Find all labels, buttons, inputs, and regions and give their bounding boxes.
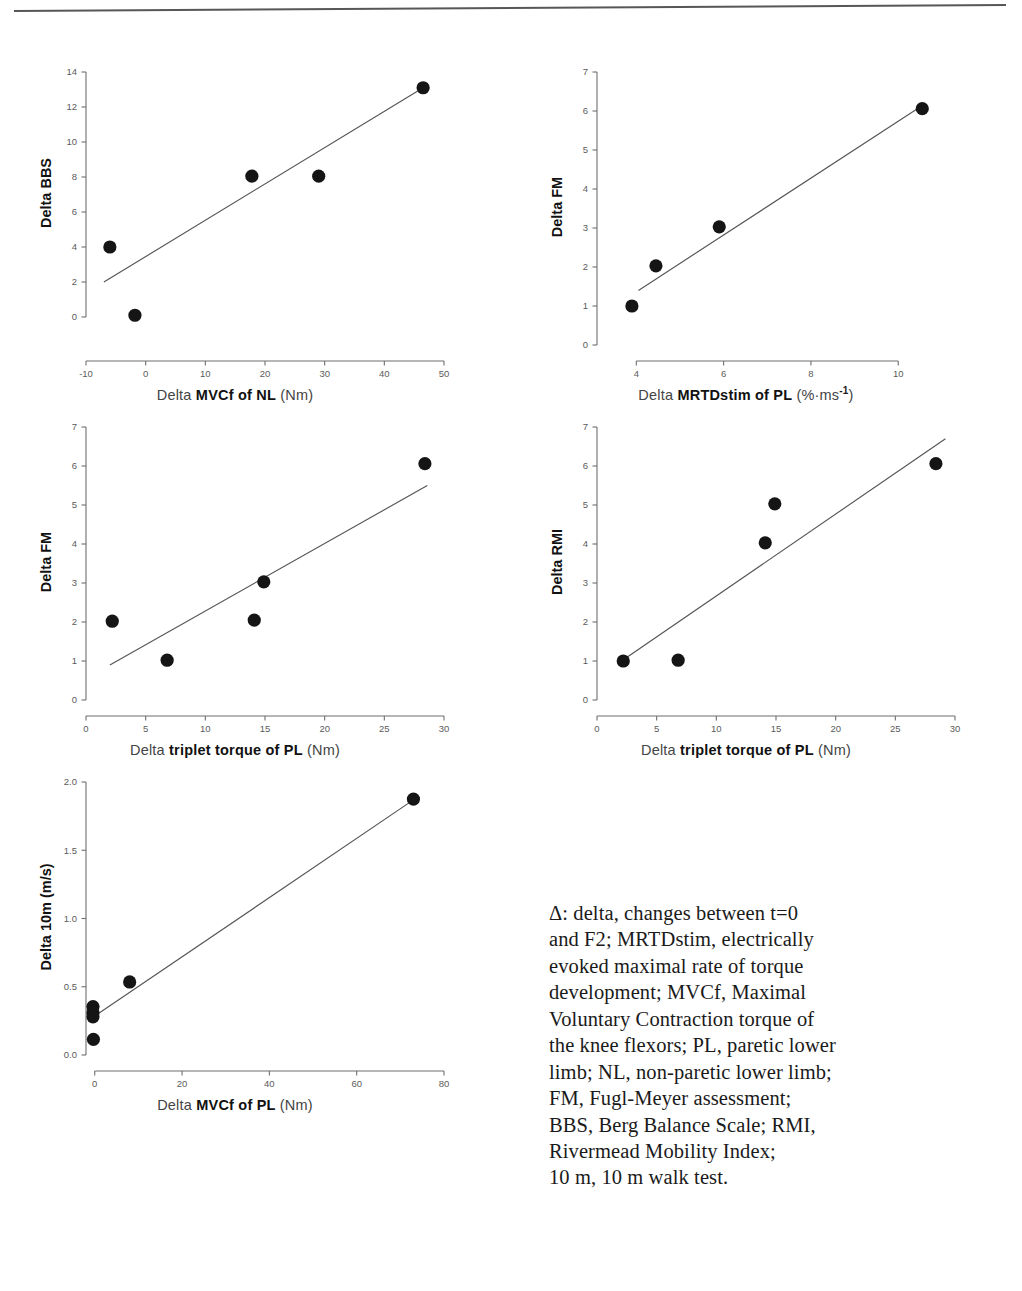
y-axis-title: Delta RMI xyxy=(549,462,565,662)
y-tick-label: 8 xyxy=(72,171,77,182)
data-point xyxy=(916,102,929,115)
x-tick-label: 0 xyxy=(143,368,148,379)
x-tick-label: 10 xyxy=(893,368,904,379)
data-point xyxy=(713,220,726,233)
x-tick-label: 40 xyxy=(264,1078,275,1089)
caption-line: limb; NL, non-paretic lower limb; xyxy=(549,1059,941,1085)
data-point xyxy=(625,299,638,312)
x-tick-label: 30 xyxy=(439,723,450,734)
x-tick-label: 30 xyxy=(319,368,330,379)
data-point xyxy=(407,792,420,805)
data-point xyxy=(672,654,685,667)
caption-line: Voluntary Contraction torque of xyxy=(549,1006,941,1032)
y-tick-label: 12 xyxy=(66,101,77,112)
x-tick-label: 10 xyxy=(711,723,722,734)
y-tick-label: 4 xyxy=(72,241,77,252)
x-axis-title: Delta triplet torque of PL (Nm) xyxy=(0,742,470,758)
y-tick-label: 10 xyxy=(66,136,77,147)
data-point xyxy=(103,240,116,253)
caption-line: Δ: delta, changes between t=0 xyxy=(549,900,941,926)
y-axis-title: Delta FM xyxy=(38,462,54,662)
scatter-panel-fm-vs-triplet-torque-pl: 01234567051015202530Delta triplet torque… xyxy=(0,403,511,758)
y-tick-label: 1 xyxy=(72,655,77,666)
chart-cell-3: 01234567051015202530Delta triplet torque… xyxy=(0,403,511,758)
x-tick-label: 60 xyxy=(351,1078,362,1089)
y-tick-label: 6 xyxy=(583,105,588,116)
x-tick-label: 0 xyxy=(92,1078,97,1089)
panel-rmi-vs-triplet-torque-pl-svg: 01234567051015202530 xyxy=(511,403,981,758)
x-axis: -1001020304050 xyxy=(79,361,449,379)
data-point xyxy=(86,1010,99,1023)
caption-line: evoked maximal rate of torque xyxy=(549,953,941,979)
x-axis-title-lead: Delta xyxy=(130,742,169,758)
y-tick-label: 6 xyxy=(72,206,77,217)
data-point xyxy=(617,654,630,667)
y-axis: 0.00.51.01.52.0 xyxy=(64,776,86,1060)
y-axis-title: Delta BBS xyxy=(38,93,54,293)
figure-caption: Δ: delta, changes between t=0and F2; MRT… xyxy=(549,900,941,1191)
x-axis-title-exponent: -1 xyxy=(839,385,848,396)
y-tick-label: 2 xyxy=(72,276,77,287)
data-point xyxy=(87,1033,100,1046)
y-tick-label: 5 xyxy=(583,144,588,155)
chart-cell-4: 01234567051015202530Delta triplet torque… xyxy=(511,403,1022,758)
y-tick-label: 4 xyxy=(583,538,588,549)
chart-cell-1: 02468101214-1001020304050Delta MVCf of N… xyxy=(0,48,511,403)
data-point xyxy=(161,654,174,667)
y-tick-label: 2.0 xyxy=(64,776,77,787)
x-axis-title-core: triplet torque of PL xyxy=(680,742,814,758)
x-axis-title-core: MVCf of NL xyxy=(196,387,276,403)
x-axis: 051015202530 xyxy=(594,716,960,734)
x-tick-label: 20 xyxy=(830,723,841,734)
caption-line: 10 m, 10 m walk test. xyxy=(549,1164,941,1190)
x-axis-title-core: triplet torque of PL xyxy=(169,742,303,758)
x-tick-label: 15 xyxy=(771,723,782,734)
x-axis: 46810 xyxy=(634,361,904,379)
caption-line: Rivermead Mobility Index; xyxy=(549,1138,941,1164)
caption-line: and F2; MRTDstim, electrically xyxy=(549,926,941,952)
x-tick-label: 5 xyxy=(143,723,148,734)
x-axis-title: Delta MRTDstim of PL (%·ms-1) xyxy=(511,387,981,403)
x-tick-label: 0 xyxy=(594,723,599,734)
x-tick-label: 8 xyxy=(808,368,813,379)
x-axis-title-lead: Delta xyxy=(638,387,677,403)
x-tick-label: 15 xyxy=(260,723,271,734)
data-point xyxy=(649,259,662,272)
trendline xyxy=(104,88,423,282)
x-tick-label: 6 xyxy=(721,368,726,379)
x-axis-title: Delta MVCf of PL (Nm) xyxy=(0,1097,470,1113)
x-tick-label: 4 xyxy=(634,368,639,379)
x-axis: 051015202530 xyxy=(83,716,449,734)
x-axis-title-lead: Delta xyxy=(157,387,196,403)
y-tick-label: 6 xyxy=(72,460,77,471)
chart-row-2: 01234567051015202530Delta triplet torque… xyxy=(0,403,1022,758)
data-point xyxy=(312,170,325,183)
data-points xyxy=(617,457,943,668)
y-tick-label: 0 xyxy=(72,694,77,705)
x-axis-title-core: MRTDstim of PL xyxy=(677,387,792,403)
y-tick-label: 1 xyxy=(583,655,588,666)
data-point xyxy=(128,309,141,322)
data-points xyxy=(106,457,432,667)
y-tick-label: 3 xyxy=(72,577,77,588)
x-axis-title-unit-close: ) xyxy=(849,387,854,403)
data-point xyxy=(257,575,270,588)
y-axis-title: Delta 10m (m/s) xyxy=(38,817,54,1017)
data-points xyxy=(625,102,929,313)
data-points xyxy=(86,792,420,1045)
y-axis-title: Delta FM xyxy=(549,107,565,307)
y-tick-label: 1.0 xyxy=(64,913,77,924)
trendline xyxy=(110,486,427,665)
x-axis-title-lead: Delta xyxy=(157,1097,196,1113)
y-tick-label: 7 xyxy=(583,421,588,432)
x-tick-label: 5 xyxy=(654,723,659,734)
y-tick-label: 0.5 xyxy=(64,981,77,992)
y-axis: 01234567 xyxy=(583,66,597,350)
x-tick-label: 10 xyxy=(200,723,211,734)
x-axis-title-core: MVCf of PL xyxy=(196,1097,275,1113)
x-axis-title-unit: (Nm) xyxy=(276,1097,313,1113)
scatter-panel-bbs-vs-mvcf-nl: 02468101214-1001020304050Delta MVCf of N… xyxy=(0,48,511,403)
y-tick-label: 1 xyxy=(583,300,588,311)
x-tick-label: 25 xyxy=(890,723,901,734)
y-tick-label: 2 xyxy=(72,616,77,627)
